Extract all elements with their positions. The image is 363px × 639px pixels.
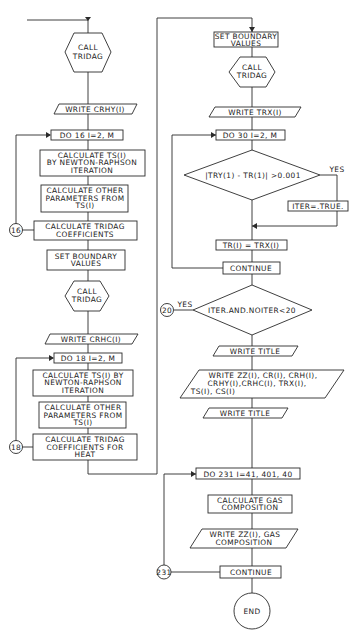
calc-other-2-box: CALCULATE OTHER PARAMETERS FROM TS(I) <box>39 402 126 428</box>
write-crhy-io: WRITE CRHY(I) <box>54 104 137 114</box>
write-crhc-io: WRITE CRHC(I) <box>45 334 138 344</box>
decision-convergence: |TRY(1) - TR(1)| >0.001 <box>184 150 320 200</box>
write-all-io: WRITE ZZ(I), CR(I), CRH(I), CRHY(I),CRHC… <box>180 370 344 398</box>
svg-text:ITERATION: ITERATION <box>71 166 113 175</box>
set-boundary-1-box: SET BOUNDARY VALUES <box>47 250 125 270</box>
svg-text:DO 16 I=2, M: DO 16 I=2, M <box>60 131 115 140</box>
connector-16: 16 <box>10 224 23 237</box>
tridag-coeff-1-box: CALCULATE TRIDAG COEFFICIENTS <box>34 221 137 240</box>
arrow-icon <box>252 223 257 229</box>
svg-text:16: 16 <box>11 226 21 235</box>
write-trx-io: WRITE TRX(I) <box>209 107 301 117</box>
yes-label-1: YES <box>328 165 344 174</box>
yes-branch-line <box>320 175 337 201</box>
svg-text:COMPOSITION: COMPOSITION <box>216 538 273 547</box>
svg-text:DO 30 I=2, M: DO 30 I=2, M <box>223 131 278 140</box>
do18-box: DO 18 I=2, M <box>54 353 122 363</box>
svg-text:ITER.AND.NOITER<20: ITER.AND.NOITER<20 <box>208 306 296 315</box>
svg-text:TRIDAG: TRIDAG <box>72 52 103 61</box>
svg-text:CALL: CALL <box>78 43 99 52</box>
svg-text:DO 18 I=2, M: DO 18 I=2, M <box>61 354 116 363</box>
connector-231: 231 <box>156 565 171 579</box>
svg-text:20: 20 <box>162 306 172 315</box>
svg-text:231: 231 <box>156 568 171 577</box>
arrow-icon <box>211 132 216 138</box>
write-gas-io: WRITE ZZ(I), GAS COMPOSITION <box>190 529 298 548</box>
loop-231-line <box>164 474 196 565</box>
write-title-1-io: WRITE TITLE <box>213 346 298 356</box>
svg-text:COMPOSITION: COMPOSITION <box>222 503 279 512</box>
svg-text:TR(I) = TRX(I): TR(I) = TRX(I) <box>222 241 280 250</box>
svg-text:18: 18 <box>11 443 21 452</box>
call-tridag-2: CALL TRIDAG <box>65 281 109 311</box>
do30-box: DO 30 I=2, M <box>216 130 285 140</box>
arrow-icon <box>49 355 54 361</box>
svg-text:VALUES: VALUES <box>71 259 102 268</box>
svg-text:COEFFICIENTS: COEFFICIENTS <box>56 230 114 239</box>
tridag-coeff-heat-box: CALCULATE TRIDAG COEFFICIENTS FOR HEAT <box>33 434 137 460</box>
continue-2-box: CONTINUE <box>220 566 281 578</box>
connector-18: 18 <box>10 441 23 454</box>
arrow-icon <box>191 471 196 477</box>
calc-ts-1-box: CALCULATE TS(I) BY NEWTON-RAPHSON ITERAT… <box>40 150 145 176</box>
svg-text:DO 231 I=41, 401, 40: DO 231 I=41, 401, 40 <box>204 470 293 479</box>
svg-text:HEAT: HEAT <box>75 450 96 459</box>
svg-text:VALUES: VALUES <box>231 39 262 48</box>
end-terminal: END <box>234 593 270 629</box>
flowchart-canvas: CALL TRIDAG WRITE CRHY(I) DO 16 I=2, M C… <box>0 0 363 639</box>
svg-text:WRITE CRHY(I): WRITE CRHY(I) <box>65 105 125 114</box>
calc-other-1-box: CALCULATE OTHER PARAMETERS FROM TS(I) <box>41 185 128 212</box>
tr-assign-box: TR(I) = TRX(I) <box>216 240 287 250</box>
svg-text:WRITE TRX(I): WRITE TRX(I) <box>228 108 282 117</box>
svg-text:END: END <box>243 607 260 616</box>
svg-text:TS(I): TS(I) <box>74 201 94 210</box>
connector-20: 20 <box>161 304 174 317</box>
svg-text:CONTINUE: CONTINUE <box>230 264 272 273</box>
svg-text:WRITE TITLE: WRITE TITLE <box>220 409 271 418</box>
svg-text:TS(I), CS(I): TS(I), CS(I) <box>190 387 235 396</box>
svg-text:TRIDAG: TRIDAG <box>71 295 102 304</box>
svg-text:|TRY(1) - TR(1)| >0.001: |TRY(1) - TR(1)| >0.001 <box>205 171 301 180</box>
svg-text:WRITE CRHC(I): WRITE CRHC(I) <box>61 335 121 344</box>
do16-box: DO 16 I=2, M <box>51 130 123 140</box>
svg-text:WRITE TITLE: WRITE TITLE <box>230 347 281 356</box>
loop-30-line <box>172 135 223 268</box>
yes-label-2: YES <box>176 300 192 309</box>
calc-gas-box: CALCULATE GAS COMPOSITION <box>208 495 292 513</box>
continue-1-box: CONTINUE <box>223 262 280 274</box>
svg-text:ITERATION: ITERATION <box>62 386 104 395</box>
iter-true-box: ITER=.TRUE. <box>288 201 348 211</box>
svg-text:TRIDAG: TRIDAG <box>236 71 267 80</box>
do231-box: DO 231 I=41, 401, 40 <box>196 468 300 479</box>
write-title-2-io: WRITE TITLE <box>203 408 288 418</box>
entry-line <box>27 20 88 33</box>
svg-text:CONTINUE: CONTINUE <box>230 568 272 577</box>
call-tridag-3: CALL TRIDAG <box>229 57 275 87</box>
decision-iteration: ITER.AND.NOITER<20 <box>193 285 312 335</box>
svg-text:ITER=.TRUE.: ITER=.TRUE. <box>292 202 344 211</box>
arrow-icon <box>46 132 51 138</box>
set-boundary-2-box: SET BOUNDARY VALUES <box>214 32 278 48</box>
call-tridag-1: CALL TRIDAG <box>65 33 111 72</box>
svg-text:TS(I): TS(I) <box>72 418 92 427</box>
calc-ts-2-box: CALCULATE TS(I) BY NEWTON-RAPHSON ITERAT… <box>33 370 133 396</box>
